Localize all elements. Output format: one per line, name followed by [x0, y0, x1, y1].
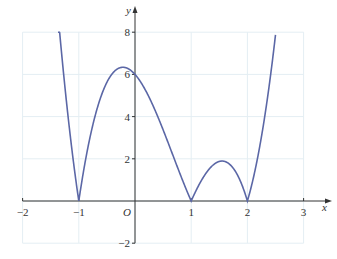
svg-text:1: 1: [188, 206, 194, 218]
svg-text:2: 2: [125, 153, 131, 165]
svg-text:3: 3: [301, 206, 307, 218]
svg-text:2: 2: [245, 206, 251, 218]
x-axis-label: x: [321, 201, 327, 213]
svg-text:−2: −2: [17, 206, 29, 218]
origin-label: O: [123, 206, 131, 218]
tick-labels: −2−1123−22468: [17, 26, 307, 249]
svg-text:−2: −2: [118, 237, 130, 249]
svg-text:−1: −1: [73, 206, 85, 218]
y-axis-label: y: [125, 4, 131, 16]
svg-text:4: 4: [125, 111, 131, 123]
svg-text:8: 8: [125, 26, 131, 38]
function-graph: −2−1123−22468 x y O: [0, 0, 337, 259]
svg-text:6: 6: [125, 68, 131, 80]
